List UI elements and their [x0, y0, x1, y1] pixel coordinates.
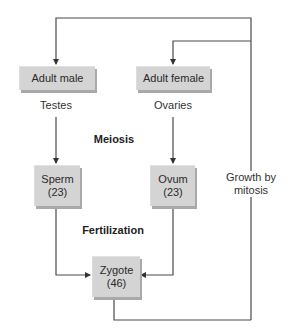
label-growth-line1: Growth by: [221, 171, 281, 184]
node-adult-female: Adult female: [136, 66, 210, 90]
edge-zygote-to-growth: [114, 298, 251, 320]
node-zygote-label: Zygote: [100, 264, 134, 277]
node-adult-female-label: Adult female: [143, 72, 204, 85]
node-sperm: Sperm (23): [34, 165, 80, 206]
label-testes: Testes: [26, 99, 86, 112]
label-ovaries: Ovaries: [143, 99, 203, 112]
node-sperm-label: Sperm: [41, 173, 73, 186]
label-growth-by-mitosis: Growth by mitosis: [221, 171, 281, 197]
label-meiosis: Meiosis: [92, 133, 136, 146]
node-zygote: Zygote (46): [92, 256, 140, 297]
node-ovum-count: (23): [163, 186, 183, 199]
label-growth-line2: mitosis: [221, 184, 281, 197]
node-ovum-label: Ovum: [158, 173, 187, 186]
edge-ovum-to-zygote: [141, 207, 173, 275]
node-adult-male: Adult male: [19, 66, 95, 90]
node-adult-male-label: Adult male: [32, 72, 84, 85]
node-zygote-count: (46): [107, 277, 127, 290]
node-sperm-count: (23): [48, 186, 68, 199]
edge-growth-to-female: [173, 41, 251, 64]
label-fertilization: Fertilization: [80, 224, 146, 237]
node-ovum: Ovum (23): [150, 165, 195, 206]
edge-sperm-to-zygote: [56, 207, 90, 275]
